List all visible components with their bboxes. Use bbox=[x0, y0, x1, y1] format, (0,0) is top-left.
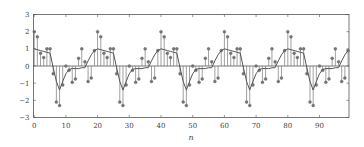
stem-marker bbox=[77, 57, 80, 60]
x-tick-label: 80 bbox=[283, 122, 292, 130]
stem-marker bbox=[328, 77, 331, 80]
stem-marker bbox=[58, 104, 61, 107]
stem-marker bbox=[318, 65, 321, 68]
stem-marker bbox=[42, 56, 45, 59]
line-series bbox=[34, 49, 348, 90]
stem-marker bbox=[280, 77, 283, 80]
stem-marker bbox=[207, 47, 210, 50]
stem-marker bbox=[64, 65, 67, 68]
stem-marker bbox=[289, 35, 292, 38]
stem-marker bbox=[277, 80, 280, 83]
stem-marker bbox=[121, 104, 124, 107]
stem-marker bbox=[166, 52, 169, 55]
stem-marker bbox=[201, 77, 204, 80]
stem-marker bbox=[324, 81, 327, 84]
x-tick-label: 60 bbox=[220, 122, 229, 130]
stem-marker bbox=[274, 60, 277, 63]
stem-marker bbox=[118, 101, 121, 104]
stem-marker bbox=[340, 80, 343, 83]
stem-marker bbox=[134, 81, 137, 84]
stem-marker bbox=[90, 77, 93, 80]
stem-marker bbox=[169, 56, 172, 59]
y-tick-label: 0 bbox=[25, 63, 29, 71]
stem-marker bbox=[293, 52, 296, 55]
stem-marker bbox=[112, 47, 115, 50]
stem-marker bbox=[109, 47, 112, 50]
x-axis-label: n bbox=[188, 133, 193, 142]
stem-marker bbox=[226, 35, 229, 38]
stem-marker bbox=[232, 56, 235, 59]
x-tick-label: 50 bbox=[188, 122, 197, 130]
stem-marker bbox=[245, 101, 248, 104]
stem-marker bbox=[296, 56, 299, 59]
stem-marker bbox=[204, 57, 207, 60]
y-tick-label: 3 bbox=[25, 11, 29, 19]
x-tick-label: 0 bbox=[32, 122, 36, 130]
x-tick-label: 30 bbox=[125, 122, 134, 130]
x-tick-label: 90 bbox=[315, 122, 324, 130]
stem-marker bbox=[334, 47, 337, 50]
stem-marker bbox=[163, 35, 166, 38]
stem-marker bbox=[210, 60, 213, 63]
stem-marker bbox=[36, 35, 39, 38]
x-tick-label: 10 bbox=[61, 122, 70, 130]
stem-marker bbox=[147, 60, 150, 63]
stem-marker bbox=[87, 80, 90, 83]
y-tick-label: 2 bbox=[25, 28, 29, 36]
stem-marker bbox=[55, 101, 58, 104]
filtered-line bbox=[34, 49, 348, 90]
stem-marker bbox=[213, 80, 216, 83]
stem-marker bbox=[45, 47, 48, 50]
stem-marker bbox=[264, 77, 267, 80]
stem-marker bbox=[267, 57, 270, 60]
stem-marker bbox=[191, 65, 194, 68]
stem-marker bbox=[96, 30, 99, 33]
y-tick-label: −3 bbox=[19, 114, 29, 122]
stem-marker bbox=[255, 65, 258, 68]
stem-marker bbox=[217, 77, 220, 80]
x-tick-label: 40 bbox=[157, 122, 166, 130]
stem-marker bbox=[312, 104, 315, 107]
stem-marker bbox=[80, 47, 83, 50]
stem-marker bbox=[74, 77, 77, 80]
stem-marker bbox=[39, 52, 42, 55]
stem-marker bbox=[137, 77, 140, 80]
x-tick-label: 20 bbox=[93, 122, 102, 130]
stem-marker bbox=[150, 80, 153, 83]
stem-marker bbox=[49, 47, 52, 50]
stem-marker bbox=[248, 104, 251, 107]
stem-marker bbox=[185, 104, 188, 107]
stem-marker bbox=[175, 47, 178, 50]
stem-marker bbox=[106, 56, 109, 59]
y-tick-label: −1 bbox=[19, 80, 29, 88]
y-tick-label: −2 bbox=[19, 97, 29, 105]
stem-marker bbox=[299, 47, 302, 50]
stem-marker bbox=[172, 47, 175, 50]
stem-marker bbox=[239, 47, 242, 50]
stem-marker bbox=[286, 30, 289, 33]
stem-marker bbox=[261, 81, 264, 84]
stem-marker bbox=[236, 47, 239, 50]
stem-marker bbox=[198, 81, 201, 84]
stem-marker bbox=[343, 77, 346, 80]
stem-plot: 0102030405060708090−3−2−10123 n bbox=[0, 0, 364, 147]
stem-marker bbox=[140, 57, 143, 60]
stem-marker bbox=[71, 81, 74, 84]
x-tick-label: 70 bbox=[252, 122, 261, 130]
stem-marker bbox=[144, 47, 147, 50]
stem-marker bbox=[331, 57, 334, 60]
stem-marker bbox=[99, 35, 102, 38]
stem-marker bbox=[160, 30, 163, 33]
stem-marker bbox=[308, 101, 311, 104]
stem-marker bbox=[128, 65, 131, 68]
stem-marker bbox=[83, 60, 86, 63]
stem-marker bbox=[337, 60, 340, 63]
y-tick-label: 1 bbox=[25, 45, 29, 53]
stem-marker bbox=[182, 101, 185, 104]
stem-marker bbox=[270, 47, 273, 50]
stem-marker bbox=[223, 30, 226, 33]
stem-marker bbox=[153, 77, 156, 80]
stem-marker bbox=[102, 52, 105, 55]
stem-marker bbox=[302, 47, 305, 50]
stem-marker bbox=[229, 52, 232, 55]
